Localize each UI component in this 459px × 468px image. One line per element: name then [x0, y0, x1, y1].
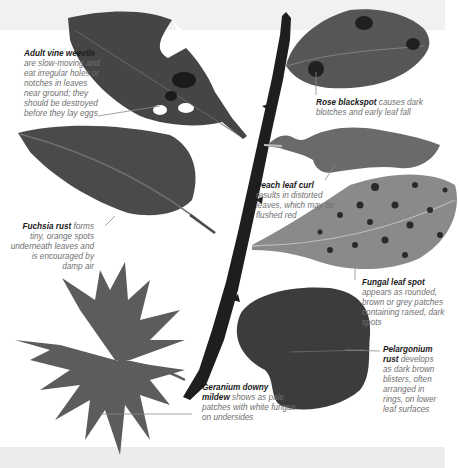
caption-title: Peach leaf curl: [256, 181, 314, 190]
caption-geranium-downy-mildew: Geranium downy mildew shows as pale patc…: [202, 383, 297, 423]
caption-title: Fuchsia rust: [23, 222, 72, 231]
caption-pelargonium-rust: Pelargonium rust develops as dark brown …: [383, 345, 443, 415]
caption-vine-weevil: Adult vine weevils are slow-moving and e…: [24, 49, 104, 119]
caption-fungal-leaf-spot: Fungal leaf spot appears as rounded, bro…: [362, 278, 447, 328]
peach-leaf-curl-leaf: [264, 128, 440, 173]
caption-text: appears as rounded, brown or grey patche…: [362, 288, 444, 327]
caption-peach-leaf-curl: Peach leaf curl results in distorted lea…: [256, 181, 336, 221]
caption-rose-blackspot: Rose blackspot causes dark blotches and …: [316, 98, 431, 118]
caption-fuchsia-rust: Fuchsia rust forms tiny, orange spots un…: [10, 222, 94, 272]
caption-text: results in distorted leaves, which may b…: [256, 191, 334, 220]
caption-title: Fungal leaf spot: [362, 278, 425, 287]
caption-text: are slow-moving and eat irregular holes …: [24, 59, 100, 118]
geranium-downy-mildew-leaf: [15, 262, 185, 455]
rose-blackspot-leaf: [286, 9, 429, 88]
caption-title: Adult vine weevils: [24, 49, 95, 58]
fuchsia-rust-leaf: [18, 126, 215, 233]
caption-title: Rose blackspot: [316, 98, 377, 107]
